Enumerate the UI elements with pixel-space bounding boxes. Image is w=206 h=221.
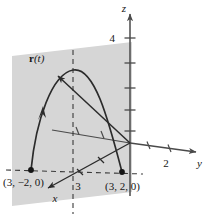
position-vector-label: r(t) bbox=[29, 52, 45, 65]
point-label-left: (3, −2, 0) bbox=[3, 176, 44, 189]
figure-canvas: z 4 y 2 x 3 r(t) (3, −2, 0) (3, 2, 0) bbox=[0, 0, 206, 221]
y-axis-line bbox=[130, 143, 196, 152]
vector-label-paren-close: ) bbox=[40, 52, 45, 65]
endpoint-dot-right bbox=[119, 169, 125, 175]
endpoint-dot-left bbox=[28, 167, 34, 173]
z-axis-label: z bbox=[121, 2, 127, 14]
x-axis-label: x bbox=[52, 192, 58, 204]
point-label-right: (3, 2, 0) bbox=[105, 180, 140, 193]
vector-function-figure: z 4 y 2 x 3 r(t) (3, −2, 0) (3, 2, 0) bbox=[0, 0, 206, 221]
x-axis-tick-label-3: 3 bbox=[75, 180, 81, 192]
y-axis-label: y bbox=[196, 157, 202, 169]
y-axis-tick-label-2: 2 bbox=[163, 157, 169, 169]
z-axis-tick-label-4: 4 bbox=[110, 32, 116, 44]
